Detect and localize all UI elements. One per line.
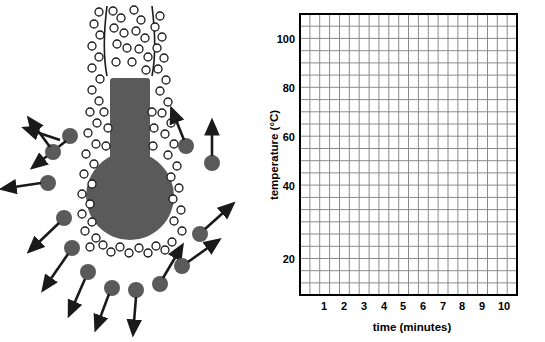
x-tick-label-10: 10 <box>498 300 510 312</box>
y-tick-label-20: 20 <box>283 253 295 265</box>
y-tick-label-80: 80 <box>283 82 295 94</box>
x-tick-label-3: 3 <box>361 300 367 312</box>
x-axis-title: time (minutes) <box>373 321 452 333</box>
x-tick-label-5: 5 <box>400 300 406 312</box>
chart-gridlines <box>300 14 517 295</box>
x-tick-label-4: 4 <box>381 300 388 312</box>
x-tick-label-9: 9 <box>479 300 485 312</box>
y-tick-label-40: 40 <box>283 180 295 192</box>
y-tick-label-100: 100 <box>277 33 295 45</box>
x-tick-label-6: 6 <box>420 300 426 312</box>
y-tick-label-60: 60 <box>283 131 295 143</box>
x-tick-label-1: 1 <box>321 300 327 312</box>
x-tick-label-7: 7 <box>440 300 446 312</box>
temperature-time-grid-chart: 100 80 60 40 20 1 2 3 4 5 6 7 8 9 10 tem… <box>262 0 545 342</box>
evaporation-illustration <box>0 0 262 342</box>
figure-page: 100 80 60 40 20 1 2 3 4 5 6 7 8 9 10 tem… <box>0 0 545 342</box>
x-tick-label-2: 2 <box>341 300 347 312</box>
x-tick-label-8: 8 <box>459 300 465 312</box>
y-axis-title: temperature (°C) <box>268 110 280 200</box>
